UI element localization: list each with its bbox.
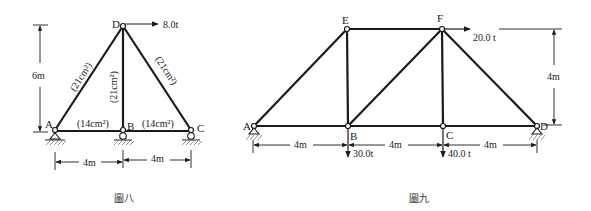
- diagram-canvas: 8.0t D A B C (21cm²) (21cm²) (21cm²) (14…: [0, 0, 591, 211]
- figure-8-truss: 8.0t D A B C (21cm²) (21cm²) (21cm²) (14…: [32, 18, 204, 204]
- svg-text:4m: 4m: [389, 139, 402, 150]
- figure-9-truss: 20.0 t 30.0t 40.0 t E F A B C D: [243, 12, 562, 204]
- node-label-d: D: [540, 120, 548, 132]
- node-label-d: D: [112, 18, 120, 30]
- node-b: [346, 124, 351, 129]
- dimension-height-6m: 6m: [32, 25, 48, 132]
- caption-figure-8: 圖八: [114, 193, 134, 204]
- member-cf: [442, 29, 443, 126]
- node-c: [441, 124, 446, 129]
- node-a: [53, 128, 58, 133]
- area-label-ab: (14cm²): [77, 118, 109, 130]
- load-label-b: 30.0t: [353, 148, 374, 159]
- member-be: [347, 29, 348, 126]
- svg-text:4m: 4m: [83, 157, 96, 168]
- caption-figure-9: 圖九: [409, 193, 429, 204]
- node-f: [440, 27, 445, 32]
- node-label-e: E: [342, 14, 349, 26]
- svg-text:6m: 6m: [32, 70, 45, 81]
- node-label-c: C: [197, 122, 204, 134]
- node-b: [121, 128, 126, 133]
- area-label-bc: (14cm²): [142, 118, 174, 130]
- svg-text:4m: 4m: [547, 71, 560, 82]
- support-pin-a: [45, 133, 66, 145]
- member-cd: [123, 26, 191, 130]
- svg-text:4m: 4m: [484, 139, 497, 150]
- member-df: [442, 29, 537, 126]
- load-label-d: 8.0t: [163, 19, 179, 30]
- member-bf: [348, 29, 442, 126]
- node-label-b: B: [127, 120, 134, 132]
- support-roller-b: [114, 133, 134, 145]
- node-d: [121, 24, 126, 29]
- node-label-f: F: [437, 12, 443, 24]
- area-label-cd: (21cm²): [152, 54, 179, 87]
- dimension-spans: 4m 4m: [55, 150, 191, 170]
- svg-text:4m: 4m: [151, 153, 164, 164]
- node-label-a: A: [243, 120, 251, 132]
- node-label-b: B: [350, 130, 357, 142]
- support-roller-c: [182, 133, 202, 145]
- node-e: [345, 27, 350, 32]
- dimension-height-4m: 4m: [499, 29, 562, 125]
- dimension-spans: 4m 4m 4m: [253, 139, 537, 153]
- svg-text:4m: 4m: [294, 139, 307, 150]
- load-label-c: 40.0 t: [448, 148, 471, 159]
- node-c: [189, 128, 194, 133]
- area-label-bd: (21cm²): [108, 71, 120, 103]
- load-label-f: 20.0 t: [473, 32, 496, 43]
- node-label-a: A: [45, 118, 53, 130]
- member-ae: [254, 29, 347, 126]
- node-label-c: C: [446, 129, 453, 141]
